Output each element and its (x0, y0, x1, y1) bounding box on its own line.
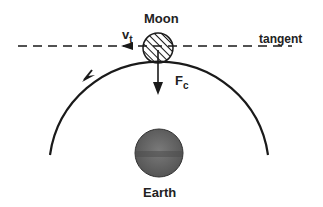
moon-label: Moon (144, 12, 179, 25)
centripetal-force-arrow-icon (153, 82, 163, 95)
velocity-label: vt (122, 28, 133, 45)
orbit-diagram: Moon vt tangent Fc Earth (0, 0, 323, 207)
earth-label: Earth (143, 186, 176, 199)
force-symbol: F (175, 73, 183, 88)
tangent-label: tangent (259, 33, 302, 45)
force-label: Fc (175, 74, 189, 91)
orbit-direction-arrow-icon (82, 70, 95, 82)
force-subscript: c (183, 80, 189, 91)
velocity-subscript: t (129, 34, 132, 45)
